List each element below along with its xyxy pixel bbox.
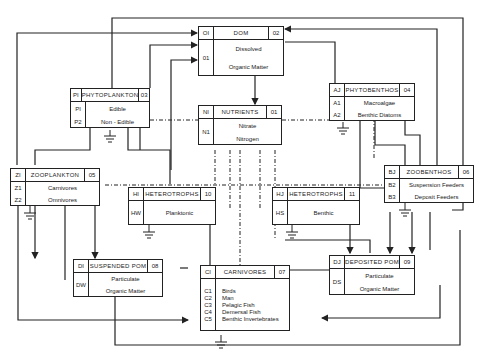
box-title: ZOOBENTHOS bbox=[400, 169, 458, 175]
ground-icon bbox=[399, 203, 411, 216]
code: Z2 bbox=[14, 197, 21, 203]
box-number: 04 bbox=[399, 84, 414, 96]
box-dom: OIDOM02 01DissolvedOrganic Matter bbox=[198, 26, 284, 76]
code: C2 bbox=[204, 295, 212, 302]
box-heterotrophs-benthic: HJHETEROTROPHS11 HSBenthic bbox=[272, 187, 360, 225]
box-zoobenthos: BJZOOBENTHOS06 B2B3Suspension FeedersDep… bbox=[384, 165, 474, 203]
desc-line: Particulate bbox=[365, 273, 393, 279]
box-zooplankton: ZIZOOPLANKTON05 Z1Z2CarnivoresOmnivores bbox=[10, 168, 100, 206]
box-deposited-pom: DJDEPOSITED POM09 DSParticulateOrganic M… bbox=[329, 255, 415, 295]
desc-line: Man bbox=[222, 295, 234, 302]
ground-icon bbox=[24, 206, 36, 219]
box-title: HETEROTROPHS bbox=[288, 191, 344, 197]
box-heterotrophs-planktonic: HIHETEROTROPHS10 HWPlanktonic bbox=[128, 187, 216, 225]
code: 01 bbox=[203, 55, 210, 61]
code: A1 bbox=[333, 100, 340, 106]
code: DW bbox=[76, 282, 86, 288]
desc-line: Dissolved bbox=[235, 46, 261, 52]
box-number: 09 bbox=[399, 256, 414, 268]
box-title: ZOOPLANKTON bbox=[26, 172, 84, 178]
input-code: OI bbox=[199, 27, 214, 39]
desc-line: Nitrate bbox=[239, 123, 257, 129]
code: B3 bbox=[388, 194, 395, 200]
desc-line: Pelagic Fish bbox=[222, 302, 255, 309]
code: Z1 bbox=[14, 185, 21, 191]
desc-line: Non - Edible bbox=[101, 119, 134, 125]
box-number: 10 bbox=[200, 188, 215, 200]
box-title: HETEROTROPHS bbox=[144, 191, 200, 197]
desc-line: Organic Matter bbox=[360, 286, 400, 292]
code: C5 bbox=[204, 316, 212, 323]
box-carnivores: CICARNIVORES07 C1C2C3C4C5BirdsManPelagic… bbox=[200, 265, 290, 331]
ground-icon bbox=[286, 225, 298, 238]
desc-line: Birds bbox=[222, 288, 236, 295]
box-phytoplankton: PIPHYTOPLANKTON03 PIP2EdibleNon - Edible bbox=[70, 88, 150, 128]
desc-line: Macroalgae bbox=[364, 100, 395, 106]
desc-line: Benthic Invertebrates bbox=[222, 316, 279, 323]
code: N1 bbox=[202, 129, 210, 135]
input-code: HI bbox=[129, 188, 144, 200]
desc-line: Omnivores bbox=[48, 197, 77, 203]
desc-line: Suspension Feeders bbox=[409, 182, 464, 188]
code: DS bbox=[333, 279, 341, 285]
desc-line: Edible bbox=[109, 106, 126, 112]
input-code: HJ bbox=[273, 188, 288, 200]
input-code: ZI bbox=[11, 169, 26, 181]
input-code: NI bbox=[199, 106, 214, 118]
code: HS bbox=[276, 210, 284, 216]
desc-line: Organic Matter bbox=[229, 64, 269, 70]
desc-line: Particulate bbox=[111, 276, 139, 282]
box-nutrients: NINUTRIENTS01 N1NitrateNitrogen bbox=[198, 105, 282, 145]
code: B2 bbox=[388, 182, 395, 188]
box-suspended-pom: DISUSPENDED POM08 DWParticulateOrganic M… bbox=[73, 259, 163, 297]
input-code: AJ bbox=[330, 84, 345, 96]
code: C3 bbox=[204, 302, 212, 309]
desc-line: Nitrogen bbox=[236, 136, 259, 142]
input-code: BJ bbox=[385, 166, 400, 178]
desc-line: Planktonic bbox=[166, 210, 194, 216]
input-code: DI bbox=[74, 260, 89, 272]
desc-line: Organic Matter bbox=[106, 288, 146, 294]
box-number: 11 bbox=[344, 188, 359, 200]
desc-line: Deposit Feeders bbox=[414, 194, 458, 200]
input-code: DJ bbox=[330, 256, 345, 268]
box-title: NUTRIENTS bbox=[214, 109, 266, 115]
box-number: 03 bbox=[138, 89, 149, 101]
code: C1 bbox=[204, 288, 212, 295]
desc-line: Benthic Diatoms bbox=[358, 112, 402, 118]
box-title: DEPOSITED POM bbox=[345, 259, 399, 265]
input-code: CI bbox=[201, 266, 216, 278]
box-number: 05 bbox=[84, 169, 99, 181]
box-title: SUSPENDED POM bbox=[89, 263, 147, 269]
box-phytobenthos: AJPHYTOBENTHOS04 A1A2MacroalgaeBenthic D… bbox=[329, 83, 415, 121]
box-title: PHYTOPLANKTON bbox=[82, 92, 139, 98]
box-title: CARNIVORES bbox=[216, 269, 274, 275]
ground-icon bbox=[337, 122, 349, 134]
box-title: DOM bbox=[214, 30, 268, 36]
desc-line: Carnivores bbox=[48, 185, 77, 191]
code: C4 bbox=[204, 309, 212, 316]
box-title: PHYTOBENTHOS bbox=[345, 87, 399, 93]
ground-icon bbox=[143, 225, 155, 238]
code: A2 bbox=[333, 112, 340, 118]
box-number: 06 bbox=[458, 166, 473, 178]
desc-line: Benthic bbox=[313, 210, 333, 216]
code: HW bbox=[131, 210, 141, 216]
code: P2 bbox=[74, 119, 81, 125]
box-number: 08 bbox=[147, 260, 162, 272]
code: PI bbox=[75, 106, 81, 112]
box-number: 01 bbox=[266, 106, 281, 118]
ground-icon bbox=[104, 130, 116, 142]
box-number: 07 bbox=[274, 266, 289, 278]
box-number: 02 bbox=[268, 27, 283, 39]
desc-line: Demersal Fish bbox=[222, 309, 261, 316]
input-code: PI bbox=[71, 89, 82, 101]
ground-icon bbox=[215, 335, 227, 348]
